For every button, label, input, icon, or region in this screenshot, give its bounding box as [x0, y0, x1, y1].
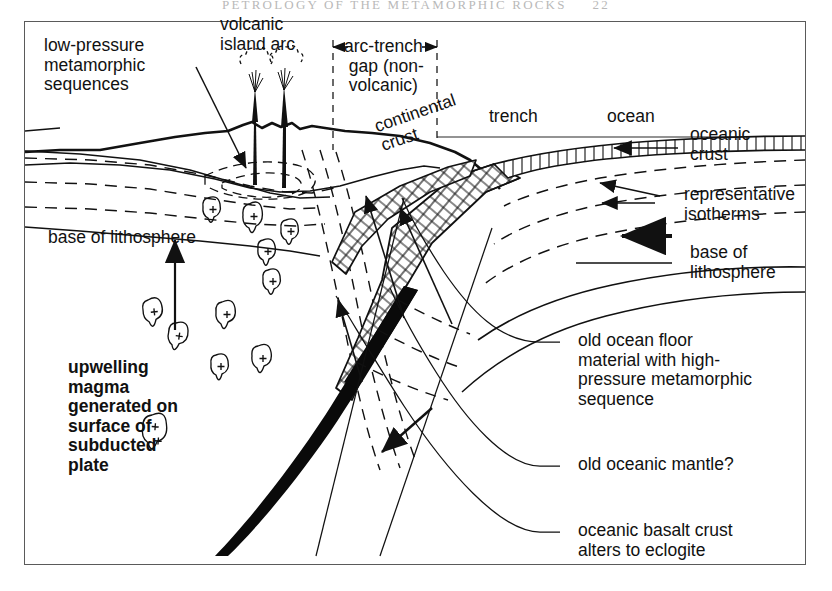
eclogite-black-wedge — [215, 286, 418, 556]
label-trench: trench — [489, 107, 538, 127]
label-upwelling-magma: upwelling magma generated on surface of … — [68, 358, 178, 476]
low-pressure-leader-arrow — [196, 67, 246, 168]
volcano-plume-icon — [240, 46, 303, 188]
label-representative-isotherms: representative isotherms — [684, 185, 795, 224]
label-volcanic-island-arc: volcanic island arc — [220, 15, 295, 54]
label-oceanic-basalt-crust: oceanic basalt crust alters to eclogite — [578, 521, 733, 560]
label-ocean: ocean — [607, 107, 655, 127]
diagram-stage: PETROLOGY OF THE METAMORPHIC ROCKS22 — [0, 0, 832, 591]
label-arc-trench-gap: arc-trench gap (non- volcanic) — [344, 37, 424, 96]
label-oceanic-crust: oceanic crust — [690, 125, 750, 164]
label-base-of-lithosphere-left: base of lithosphere — [48, 228, 196, 248]
label-base-of-lithosphere-right: base of lithosphere — [690, 243, 776, 282]
label-old-ocean-floor: old ocean floor material with high- pres… — [578, 331, 752, 409]
oceanic-crust-band — [494, 136, 806, 178]
plate-motion-arrow — [382, 408, 432, 452]
label-low-pressure: low-pressure metamorphic sequences — [44, 36, 145, 95]
label-old-oceanic-mantle: old oceanic mantle? — [578, 455, 734, 475]
isotherm-pointer-upper — [600, 183, 660, 196]
